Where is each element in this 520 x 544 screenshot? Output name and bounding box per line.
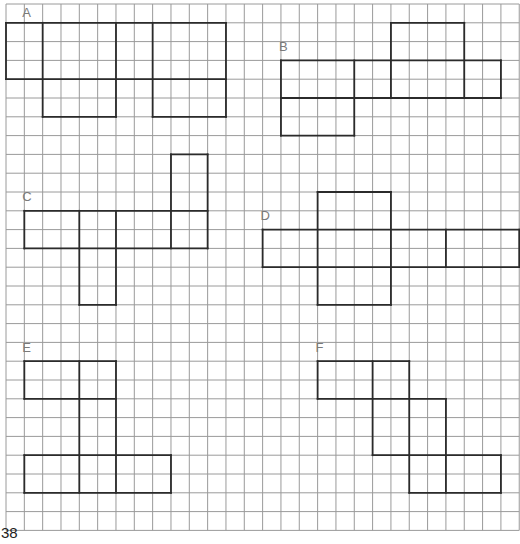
net-label: A (22, 5, 31, 20)
page-number: 38 (1, 524, 18, 541)
net-label: D (261, 208, 270, 223)
net-label: B (279, 39, 288, 54)
net-f: F (316, 340, 501, 493)
grid-sheet: ABCDEF (0, 0, 520, 544)
net-label: E (22, 340, 31, 355)
net-label: F (316, 340, 324, 355)
net-e: E (22, 340, 171, 493)
net-label: C (22, 189, 31, 204)
